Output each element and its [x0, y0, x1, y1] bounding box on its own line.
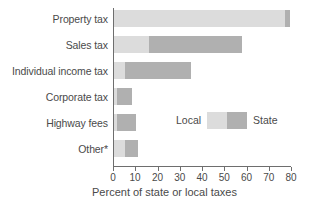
plot-area: 0 10 20 30 40 50 60 70 80 [113, 8, 291, 166]
legend: Local State [176, 112, 278, 129]
x-tick-80 [291, 167, 292, 171]
legend-swatch-local [207, 112, 227, 129]
category-label-corporate-tax: Corporate tax [0, 92, 108, 103]
x-tick-60 [247, 167, 248, 171]
bar-segment-state [149, 36, 243, 53]
x-tick-label-0: 0 [101, 172, 125, 183]
bar-segment-state [285, 10, 290, 27]
bar-segment-local [114, 140, 125, 157]
x-tick-label-40: 40 [190, 172, 214, 183]
bar-segment-state [117, 88, 132, 105]
category-label-property-tax: Property tax [0, 14, 108, 25]
x-tick-label-20: 20 [146, 172, 170, 183]
category-label-sales-tax: Sales tax [0, 40, 108, 51]
x-tick-30 [180, 167, 181, 171]
legend-label-local: Local [176, 115, 201, 126]
category-label-highway-fees: Highway fees [0, 118, 108, 129]
category-axis-labels: Property tax Sales tax Individual income… [0, 8, 108, 166]
x-tick-label-80: 80 [279, 172, 303, 183]
x-axis-title: Percent of state or local taxes [92, 186, 237, 198]
x-tick-label-60: 60 [235, 172, 259, 183]
bar-segment-local [114, 62, 125, 79]
legend-swatch-state [227, 112, 247, 129]
x-tick-label-30: 30 [168, 172, 192, 183]
bar-segment-local [114, 10, 285, 27]
bar-segment-state [117, 114, 136, 131]
x-tick-70 [269, 167, 270, 171]
bar-segment-local [114, 36, 149, 53]
x-axis-title-wrap: Percent of state or local taxes [0, 186, 309, 198]
category-label-individual-income-tax: Individual income tax [0, 66, 108, 77]
x-tick-50 [224, 167, 225, 171]
x-tick-label-10: 10 [123, 172, 147, 183]
x-tick-label-70: 70 [257, 172, 281, 183]
bar-segment-state [125, 62, 191, 79]
x-tick-20 [158, 167, 159, 171]
horizontal-stacked-bar-chart: Property tax Sales tax Individual income… [0, 0, 309, 207]
x-tick-10 [135, 167, 136, 171]
category-label-other: Other* [0, 144, 108, 155]
bar-segment-state [125, 140, 138, 157]
x-tick-0 [113, 167, 114, 171]
x-tick-label-50: 50 [212, 172, 236, 183]
legend-label-state: State [253, 115, 278, 126]
x-tick-40 [202, 167, 203, 171]
